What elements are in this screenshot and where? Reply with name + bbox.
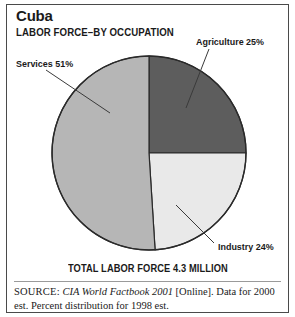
pie-chart: Services 51% Agriculture 25% Industry 24… xyxy=(0,0,295,275)
pie-slice-agriculture xyxy=(149,56,246,153)
total-labor-force-caption: TOTAL LABOR FORCE 4.3 MILLION xyxy=(0,263,295,274)
slice-label-services: Services 51% xyxy=(16,58,73,69)
source-note: SOURCE: CIA World Factbook 2001 [Online]… xyxy=(14,285,284,312)
slice-label-agriculture: Agriculture 25% xyxy=(196,36,264,47)
slice-label-industry: Industry 24% xyxy=(218,241,274,252)
source-divider xyxy=(14,281,281,282)
pie-slice-industry xyxy=(149,153,246,250)
source-publication: CIA World Factbook 2001 xyxy=(62,286,173,297)
frame-border-bottom xyxy=(6,312,289,313)
pie-slice-group xyxy=(52,56,246,250)
pie-slice-services xyxy=(52,56,155,250)
total-labor-force-text: TOTAL LABOR FORCE 4.3 MILLION xyxy=(68,263,228,274)
source-keyword: SOURCE: xyxy=(14,286,60,297)
figure-panel: Cuba LABOR FORCE–BY OCCUPATION Services … xyxy=(0,0,295,317)
